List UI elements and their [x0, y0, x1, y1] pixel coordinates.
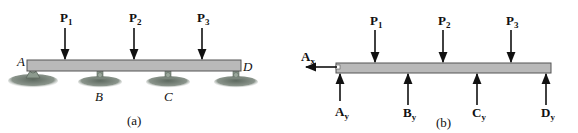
- reaction-label-by: By: [403, 105, 417, 122]
- load-label-p3: P3: [197, 10, 210, 27]
- reaction-label-ax: Ax: [301, 49, 315, 66]
- figure-b: P1 P2 P3 Ax Ay By Cy Dy (b): [301, 13, 555, 130]
- rocker-support-b: [94, 71, 106, 79]
- reaction-label-ay: Ay: [335, 104, 349, 121]
- reaction-label-dy: Dy: [541, 105, 555, 122]
- point-label-c: C: [164, 89, 173, 104]
- caption-b: (b): [436, 115, 451, 130]
- figure-a: P1 P2 P3 A B C D (a): [8, 10, 258, 128]
- rocker-support-c: [162, 71, 174, 79]
- beam-a: [27, 60, 241, 71]
- point-label-b: B: [95, 89, 103, 104]
- load-label-p2: P2: [129, 10, 142, 27]
- point-label-d: D: [242, 59, 253, 74]
- load-label-p3-fbd: P3: [506, 13, 519, 30]
- load-label-p1-fbd: P1: [370, 13, 383, 30]
- caption-a: (a): [127, 113, 141, 128]
- load-label-p2-fbd: P2: [438, 13, 451, 30]
- point-label-a: A: [16, 54, 25, 69]
- reaction-label-cy: Cy: [472, 105, 486, 122]
- rocker-support-d: [230, 71, 242, 79]
- beam-diagram: P1 P2 P3 A B C D (a) P1 P2 P3 Ax Ay By C…: [0, 0, 578, 133]
- beam-b: [336, 63, 551, 73]
- load-label-p1: P1: [60, 10, 73, 27]
